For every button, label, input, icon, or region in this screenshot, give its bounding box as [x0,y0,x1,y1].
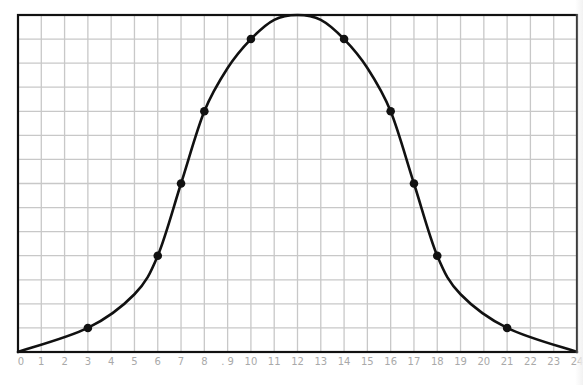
x-tick-label: 6 [155,356,161,367]
data-point-marker [177,179,186,188]
grid-lines [18,15,577,352]
x-tick-label: 1 [38,356,44,367]
data-point-marker [247,35,256,44]
scan-edge-shade [575,0,583,385]
x-tick-label: 16 [384,356,397,367]
x-axis-tick-labels: 012345678. 91011121314151617181920212223… [18,356,583,367]
data-point-marker [200,107,209,116]
data-point-marker [410,179,419,188]
x-tick-label: 23 [547,356,560,367]
x-tick-label: 8 [201,356,207,367]
bell-curve-chart: 012345678. 91011121314151617181920212223… [0,0,583,385]
x-tick-label: 15 [361,356,374,367]
x-tick-label: 10 [245,356,258,367]
data-point-marker [503,324,512,333]
x-tick-label: 5 [131,356,137,367]
x-tick-label: 3 [85,356,91,367]
x-tick-label: 19 [454,356,467,367]
x-tick-label: 17 [408,356,421,367]
x-tick-label: 20 [477,356,490,367]
data-point-marker [153,251,162,260]
data-point-marker [386,107,395,116]
data-point-marker [433,251,442,260]
x-tick-label: 21 [501,356,514,367]
x-tick-label: 22 [524,356,537,367]
x-tick-label: 13 [314,356,327,367]
x-tick-label: 12 [291,356,304,367]
data-point-marker [340,35,349,44]
x-tick-label: . 9 [221,356,234,367]
x-tick-label: 4 [108,356,114,367]
x-tick-label: 2 [61,356,67,367]
x-tick-label: 18 [431,356,444,367]
x-tick-label: 11 [268,356,281,367]
x-tick-label: 7 [178,356,184,367]
x-tick-label: 14 [338,356,351,367]
x-tick-label: 0 [18,356,24,367]
data-point-marker [84,324,93,333]
